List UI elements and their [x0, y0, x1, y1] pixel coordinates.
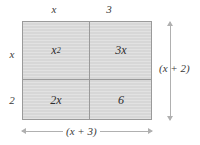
- arrow-up-icon: [167, 21, 173, 26]
- arrow-left-icon: [21, 128, 26, 134]
- cell-top-left: x2: [23, 22, 89, 79]
- horizontal-dimension-label: (x + 3): [63, 125, 100, 137]
- area-model-figure: x 3 x 2 x2 3x 2x 6 (x + 2) (x + 3): [0, 0, 200, 145]
- cell-bottom-right-base: 6: [118, 93, 124, 108]
- left-edge-label-x: x: [5, 48, 19, 60]
- arrow-down-icon: [167, 116, 173, 121]
- cell-bottom-left: 2x: [23, 80, 89, 120]
- area-model-rectangle: x2 3x 2x 6: [22, 21, 152, 120]
- left-edge-label-2: 2: [5, 94, 19, 106]
- arrow-right-icon: [148, 128, 153, 134]
- vertical-dimension-label: (x + 2): [159, 62, 190, 74]
- cell-bottom-right: 6: [90, 80, 152, 120]
- cell-top-right: 3x: [90, 22, 152, 79]
- cell-top-left-exponent: 2: [57, 46, 61, 55]
- cell-top-right-base: 3x: [115, 43, 126, 58]
- cell-bottom-left-base: 2x: [50, 93, 61, 108]
- top-edge-label-3: 3: [99, 3, 119, 15]
- top-edge-label-x: x: [44, 3, 64, 15]
